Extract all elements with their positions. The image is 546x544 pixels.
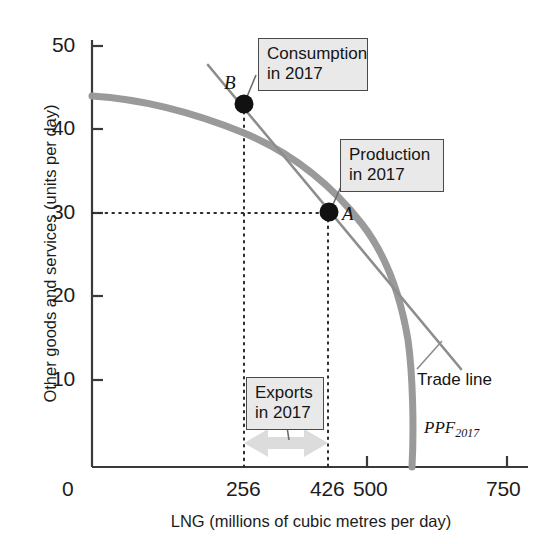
ppf-label-subscript: 2017 — [455, 426, 479, 440]
x-tick-label-750: 750 — [486, 477, 520, 501]
x-tick-label-426: 426 — [310, 477, 344, 501]
trade-line-label: Trade line — [417, 370, 492, 390]
data-point-a-marker[interactable] — [320, 203, 339, 222]
leader-line-trade-line — [417, 341, 442, 369]
callout-exports-2017: Exports in 2017 — [246, 377, 324, 430]
x-tick-label-500: 500 — [353, 477, 387, 501]
data-point-b-label: B — [224, 72, 236, 94]
y-axis-title: Other goods and services (units per day) — [41, 84, 60, 424]
ppf-curve-label: PPF2017 — [424, 418, 479, 441]
data-point-b-marker[interactable] — [235, 95, 254, 114]
data-point-a-label: A — [342, 203, 354, 225]
x-tick-label-0: 0 — [62, 477, 73, 501]
x-axis-title: LNG (millions of cubic metres per day) — [96, 512, 526, 531]
exports-double-headed-arrow-icon — [244, 429, 328, 457]
callout-production-2017: Production in 2017 — [340, 139, 444, 192]
y-tick-label-50: 50 — [52, 33, 75, 57]
ppf-label-main: PPF — [424, 418, 455, 437]
ppf-trade-line-figure: 50 40 30 20 10 0 256 426 500 750 Other g… — [0, 0, 546, 544]
exports-arrow — [244, 429, 328, 457]
x-tick-label-256: 256 — [226, 477, 260, 501]
x-axis-ticks — [367, 456, 507, 467]
callout-consumption-2017: Consumption in 2017 — [258, 38, 368, 91]
